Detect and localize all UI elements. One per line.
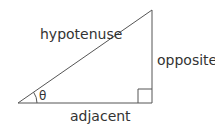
adjacent-label: adjacent bbox=[70, 108, 131, 124]
right-angle-marker bbox=[138, 89, 152, 103]
angle-theta-label: θ bbox=[39, 89, 46, 103]
opposite-label: opposite bbox=[157, 52, 215, 68]
hypotenuse-label: hypotenuse bbox=[40, 26, 122, 42]
angle-arc bbox=[34, 92, 37, 103]
right-triangle-diagram: hypotenuse opposite adjacent θ bbox=[0, 0, 215, 128]
